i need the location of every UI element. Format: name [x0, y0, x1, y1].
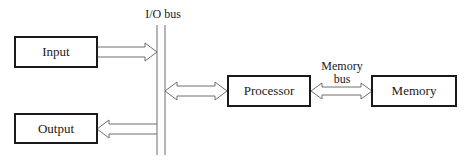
input-arrow [97, 43, 157, 61]
processor-box: Processor [227, 75, 311, 107]
memory-box: Memory [371, 75, 457, 107]
memory-bus-label: Memory bus [316, 60, 368, 86]
memory-bus-label-line2: bus [316, 73, 368, 86]
output-arrow [97, 120, 157, 138]
output-box: Output [14, 113, 98, 144]
output-label: Output [38, 121, 74, 137]
memory-label: Memory [392, 83, 437, 99]
input-label: Input [42, 44, 69, 60]
processor-label: Processor [244, 83, 295, 99]
io-bus-label: I/O bus [135, 8, 191, 21]
input-box: Input [14, 36, 98, 68]
io-processor-arrow [165, 82, 227, 100]
